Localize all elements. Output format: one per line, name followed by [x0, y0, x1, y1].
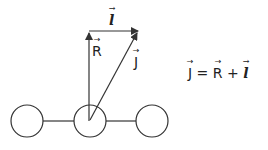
- right-atom: [136, 105, 168, 137]
- equation-lhs: J: [188, 66, 192, 80]
- j-vector-label: J: [134, 55, 138, 69]
- equation-plus: +: [227, 65, 239, 81]
- l-vector-label: l: [109, 13, 114, 27]
- center-atom: [74, 105, 106, 137]
- equation-term2: l: [243, 66, 248, 80]
- equation-equals: =: [197, 65, 209, 81]
- diagram-canvas: l R J J = R + l: [0, 0, 268, 150]
- equation-term1: R: [213, 66, 223, 80]
- equation: J = R + l: [188, 66, 248, 80]
- r-vector-label: R: [92, 44, 102, 58]
- left-atom: [11, 105, 43, 137]
